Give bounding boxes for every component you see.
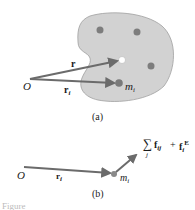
rigid-body-diagram <box>0 0 195 210</box>
mass-label-b: mi <box>120 173 129 185</box>
plus-sign: + <box>170 140 176 150</box>
caption-a: (a) <box>92 111 103 122</box>
mass-i-dot <box>115 79 123 87</box>
origin-label-a: O <box>23 81 31 92</box>
vector-ri-label-b: ri <box>56 172 62 183</box>
external-force-label: fiE <box>179 140 189 154</box>
origin-label-b: O <box>17 170 25 181</box>
vector-ri-label: ri <box>64 85 70 97</box>
sum-symbol: ∑ <box>143 137 152 150</box>
mass-label-a: mi <box>125 81 135 94</box>
sum-index: j <box>146 152 148 159</box>
particle-dot <box>134 29 141 36</box>
particle-dot <box>148 63 155 70</box>
caption-b: (b) <box>92 188 104 199</box>
force-arrow <box>116 155 136 172</box>
center-of-mass-dot <box>119 57 126 64</box>
vector-ri-arrow-b <box>24 167 110 173</box>
figure-caption-fragment: Figure <box>2 201 26 210</box>
particle-dot <box>97 27 104 34</box>
vector-r-label: r <box>71 59 75 69</box>
internal-force-label: fij <box>154 140 161 152</box>
